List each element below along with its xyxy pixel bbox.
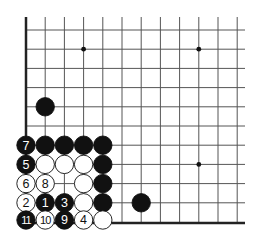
white-stone-disc [74, 155, 92, 173]
white-stone [55, 155, 73, 173]
move-number: 2 [23, 196, 30, 210]
black-stone [36, 136, 54, 154]
black-stone-disc [94, 174, 112, 192]
move-number: 9 [61, 213, 68, 227]
black-stone-disc [36, 136, 54, 154]
white-stone [74, 174, 92, 192]
move-number: 4 [80, 213, 87, 227]
black-stone [74, 136, 92, 154]
white-stone [36, 155, 54, 173]
white-stone: 2 [17, 194, 35, 212]
white-stone-disc [74, 174, 92, 192]
star-point [196, 47, 201, 52]
star-point [81, 47, 86, 52]
white-stone [74, 155, 92, 173]
black-stone [132, 194, 150, 212]
white-stone [74, 194, 92, 212]
black-stone [36, 98, 54, 116]
board-grid [25, 17, 245, 223]
white-stone-disc [36, 155, 54, 173]
white-stone: 10 [36, 211, 54, 229]
move-number: 5 [23, 158, 30, 172]
move-number: 8 [42, 177, 49, 191]
black-stone: 1 [36, 194, 54, 212]
black-stone: 9 [55, 211, 73, 229]
move-number: 11 [21, 214, 31, 226]
black-stone-disc [55, 136, 73, 154]
black-stone-disc [94, 194, 112, 212]
white-stone-disc [94, 211, 112, 229]
move-number: 10 [40, 214, 51, 226]
black-stone: 5 [17, 155, 35, 173]
black-stone [94, 155, 112, 173]
black-stone: 11 [17, 211, 35, 229]
move-number: 6 [23, 177, 30, 191]
go-board: 7568213111094 [0, 0, 258, 251]
black-stone-disc [132, 194, 150, 212]
black-stone-disc [74, 136, 92, 154]
star-point [196, 162, 201, 167]
black-stone [55, 136, 73, 154]
move-number: 7 [23, 139, 30, 153]
black-stone-disc [94, 136, 112, 154]
black-stone: 7 [17, 136, 35, 154]
white-stone-disc [55, 155, 73, 173]
black-stone: 3 [55, 194, 73, 212]
move-number: 1 [42, 196, 49, 210]
white-stone: 4 [74, 211, 92, 229]
white-stone: 6 [17, 174, 35, 192]
black-stone-disc [94, 155, 112, 173]
black-stone [94, 136, 112, 154]
white-stone [94, 211, 112, 229]
move-number: 3 [61, 196, 68, 210]
black-stone [94, 174, 112, 192]
white-stone-disc [74, 194, 92, 212]
white-stone: 8 [36, 174, 54, 192]
black-stone [94, 194, 112, 212]
black-stone-disc [36, 98, 54, 116]
